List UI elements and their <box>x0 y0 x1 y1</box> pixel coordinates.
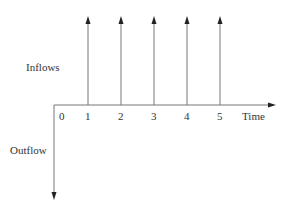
tick-label-4: 4 <box>184 111 190 122</box>
tick-label-0: 0 <box>59 111 65 122</box>
time-label: Time <box>242 111 265 122</box>
tick-label-3: 3 <box>151 111 157 122</box>
tick-label-2: 2 <box>118 111 124 122</box>
tick-label-1: 1 <box>85 111 91 122</box>
inflows-label: Inflows <box>26 62 60 73</box>
tick-label-5: 5 <box>217 111 223 122</box>
cash-flow-diagram <box>0 0 289 207</box>
outflow-label: Outflow <box>10 145 47 156</box>
